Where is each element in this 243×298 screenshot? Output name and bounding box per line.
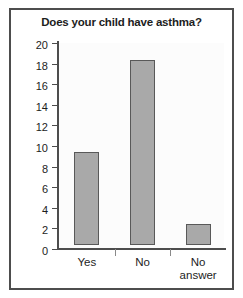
y-axis-tick: 12 <box>52 125 58 126</box>
y-axis-tick: 0 <box>52 249 58 250</box>
x-axis-label: No <box>115 256 171 269</box>
y-axis-tick-label: 14 <box>36 101 48 113</box>
x-axis-label: Noanswer <box>170 256 226 282</box>
y-axis-tick-label: 10 <box>36 142 48 154</box>
y-axis-tick-label: 4 <box>42 204 48 216</box>
chart-title: Does your child have asthma? <box>11 16 232 28</box>
y-axis-tick: 16 <box>52 84 58 85</box>
bar <box>130 60 155 245</box>
y-axis-tick: 8 <box>52 167 58 168</box>
x-axis-label-line: answer <box>170 269 226 282</box>
y-axis-tick: 14 <box>52 105 58 106</box>
y-axis-tick-label: 20 <box>36 39 48 51</box>
y-axis-tick-label: 2 <box>42 224 48 236</box>
x-axis-label-line: No <box>170 256 226 269</box>
y-axis-tick-label: 16 <box>36 80 48 92</box>
chart-frame: Does your child have asthma? 02468101214… <box>9 8 234 290</box>
x-axis-line <box>57 248 226 250</box>
y-axis-tick: 20 <box>52 43 58 44</box>
category-separator-tick <box>170 249 171 256</box>
y-axis-tick: 6 <box>52 187 58 188</box>
y-axis-tick-label: 0 <box>42 245 48 257</box>
y-axis-tick-label: 6 <box>42 183 48 195</box>
category-separator-tick <box>115 249 116 256</box>
y-axis-tick: 4 <box>52 208 58 209</box>
bar <box>74 152 99 245</box>
x-axis-label-line: Yes <box>59 256 115 269</box>
x-axis-label: Yes <box>59 256 115 269</box>
y-axis-tick-label: 18 <box>36 60 48 72</box>
y-axis-tick: 18 <box>52 64 58 65</box>
y-axis-tick: 10 <box>52 146 58 147</box>
y-axis-tick-label: 12 <box>36 121 48 133</box>
bar <box>186 224 211 245</box>
y-axis-tick: 2 <box>52 228 58 229</box>
y-axis-tick-label: 8 <box>42 163 48 175</box>
x-axis-label-line: No <box>115 256 171 269</box>
